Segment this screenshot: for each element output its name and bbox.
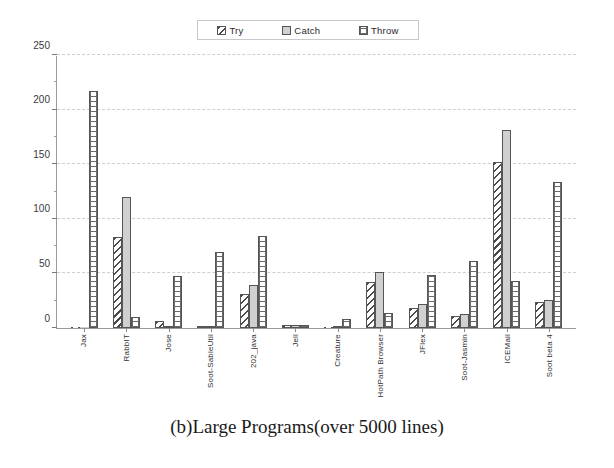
x-axis-label: Jax [79,334,88,347]
legend-item-try: Try [217,25,243,36]
bar-catch [249,285,258,328]
x-axis-label: Jose [164,334,173,352]
bar-try [366,282,375,328]
bar-group [63,56,105,328]
bar-group [105,56,147,328]
bar-throw [427,275,436,329]
legend-label-try: Try [229,25,243,36]
bar-try [535,302,544,328]
x-tick [295,328,296,332]
bar-catch [418,304,427,328]
bar-group [232,56,274,328]
y-tick-label: 50 [39,257,50,268]
bar-throw [173,276,182,328]
x-axis-label: Creature [333,334,342,367]
figure-bar-chart: Try Catch Throw 050100150200250 JaxRabbI… [0,0,614,468]
bar-try [493,162,502,328]
x-tick [253,328,254,332]
gridline [57,54,576,55]
bar-throw [258,236,267,328]
bar-throw [469,261,478,328]
legend-item-throw: Throw [359,25,398,36]
x-axis-label: Soot beta 4 [545,334,554,377]
bar-try [155,321,164,328]
x-tick [422,328,423,332]
y-tick-label: 200 [33,94,50,105]
bar-throw [131,317,140,328]
bar-throw [342,319,351,328]
x-axis-label: Soot-SableUtil [206,334,215,388]
bar-group [401,56,443,328]
bar-catch [122,197,131,328]
bar-group [528,56,570,328]
x-tick [464,328,465,332]
x-axis-label: 202_java [249,334,258,368]
x-axis-label: ICEMail [503,334,512,363]
x-tick [84,328,85,332]
bar-group [317,56,359,328]
y-tick [52,54,57,55]
x-axis-label: RabbIT [122,334,131,361]
y-tick-label: 150 [33,148,50,159]
legend-item-catch: Catch [282,25,320,36]
bar-throw [300,325,309,328]
bar-try [197,326,206,328]
legend-label-throw: Throw [371,25,398,36]
x-tick [169,328,170,332]
x-tick [380,328,381,332]
x-tick [507,328,508,332]
bar-throw [89,91,98,328]
bar-try [240,294,249,328]
figure-caption: (b)Large Programs(over 5000 lines) [0,416,614,438]
x-tick [211,328,212,332]
bar-groups [57,56,576,328]
bar-group [274,56,316,328]
x-axis-label: Jell [291,334,300,347]
bar-throw [511,281,520,328]
legend-swatch-catch-icon [282,26,291,35]
x-tick [338,328,339,332]
legend-swatch-try-icon [217,26,226,35]
bar-try [324,327,333,328]
x-axis-label: JFlex [418,334,427,354]
x-tick [126,328,127,332]
bar-group [486,56,528,328]
bar-try [282,325,291,328]
bar-catch [544,300,553,328]
bar-group [190,56,232,328]
y-tick-label: 0 [44,312,50,323]
y-tick-label: 250 [33,39,50,50]
bar-try [451,316,460,328]
bar-throw [553,182,562,328]
bar-group [148,56,190,328]
y-tick-label: 100 [33,203,50,214]
bar-catch [502,130,511,328]
bar-group [359,56,401,328]
bar-try [113,237,122,328]
bar-try [71,327,80,328]
bar-throw [215,252,224,328]
bar-try [409,308,418,328]
legend-label-catch: Catch [294,25,320,36]
plot-area: 050100150200250 [56,56,576,329]
bar-catch [375,272,384,328]
legend-swatch-throw-icon [359,26,368,35]
x-axis-label: HotPath Browser [376,334,385,397]
bar-group [443,56,485,328]
chart-legend: Try Catch Throw [197,20,419,40]
bar-throw [384,313,393,328]
x-axis-label: Soot-Jasmin [460,334,469,381]
bar-catch [460,314,469,328]
x-tick [549,328,550,332]
